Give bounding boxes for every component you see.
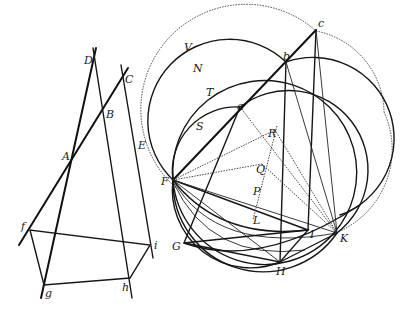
left-figure: D C B A E f i g h bbox=[19, 48, 158, 300]
label-K: K bbox=[339, 232, 349, 245]
label-c: c bbox=[318, 17, 324, 30]
label-I: I bbox=[309, 228, 315, 241]
label-V: V bbox=[184, 41, 193, 54]
label-P: P bbox=[252, 185, 261, 198]
label-R: R bbox=[267, 127, 276, 140]
label-G: G bbox=[172, 240, 181, 253]
line-D-g bbox=[41, 48, 96, 298]
right-figure: c b a V N T S R Q P L F G H I K bbox=[141, 4, 394, 278]
label-h: h bbox=[122, 281, 129, 294]
line-b-K bbox=[286, 62, 337, 233]
label-T: T bbox=[206, 86, 215, 99]
label-f: f bbox=[20, 220, 27, 233]
line-C-A-f bbox=[19, 68, 128, 245]
label-B: B bbox=[105, 108, 114, 121]
circle-N bbox=[141, 4, 316, 188]
circle-T-right bbox=[286, 57, 394, 215]
quadrilateral-fghi bbox=[30, 230, 150, 285]
line-C-E-i bbox=[121, 65, 153, 258]
label-D: D bbox=[83, 54, 93, 67]
label-F: F bbox=[160, 175, 169, 188]
line-c-I bbox=[308, 30, 316, 230]
geometric-diagram: D C B A E f i g h bbox=[0, 0, 402, 315]
line-F-c bbox=[173, 30, 316, 180]
line-Q-K bbox=[262, 164, 337, 233]
label-A: A bbox=[61, 150, 70, 163]
label-H: H bbox=[275, 265, 286, 278]
line-F-I bbox=[173, 180, 308, 230]
label-E: E bbox=[137, 139, 146, 152]
label-S: S bbox=[196, 120, 204, 133]
label-L: L bbox=[252, 214, 260, 227]
label-i: i bbox=[154, 239, 158, 252]
label-a: a bbox=[237, 100, 244, 113]
label-Q: Q bbox=[256, 163, 265, 176]
label-C: C bbox=[125, 73, 134, 86]
label-N: N bbox=[192, 62, 203, 75]
label-b: b bbox=[283, 50, 290, 63]
label-g: g bbox=[45, 287, 52, 300]
line-F-H bbox=[173, 180, 280, 262]
